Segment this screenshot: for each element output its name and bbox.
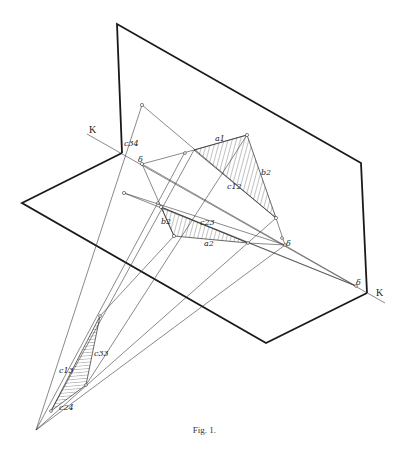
label-c13: c13 [59,366,74,375]
label-delta-mid: δ [286,239,291,248]
axis-label-k-right: K [376,287,384,298]
label-c12: c12 [227,182,242,191]
label-a2: a2 [204,239,214,248]
label-c24: c24 [59,403,74,412]
lower-hatched-triangle [51,316,100,411]
label-b2-lower: b2 [161,217,171,226]
geometric-projection-diagram: K K c34 δ a1 b2 c12 b2 c23 a2 δ δ c13 c3… [0,0,409,454]
label-c23: c23 [200,218,215,227]
label-c34: c34 [124,139,139,148]
figure-caption: Fig. 1. [0,425,409,435]
axis-label-k-left: K [89,124,97,135]
label-c33: c33 [94,349,109,358]
label-delta-upper: δ [138,155,143,164]
label-a1: a1 [215,134,225,143]
label-delta-right: δ [356,278,361,287]
label-b2-upper: b2 [261,168,271,177]
